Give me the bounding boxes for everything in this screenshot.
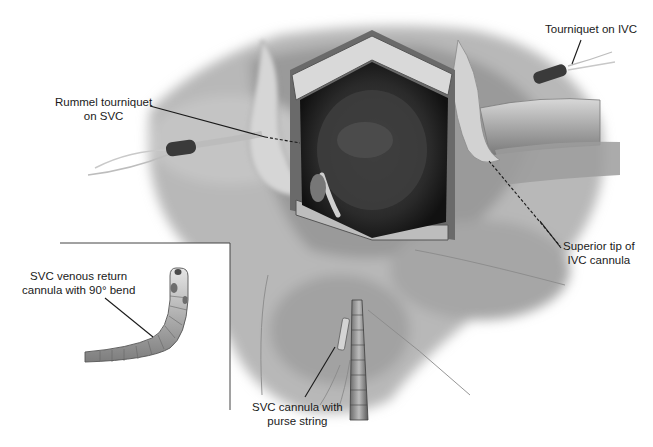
label-svc-venous-return-line2: cannula with 90° bend — [22, 283, 135, 297]
label-rummel-tourniquet-line1: Rummel tourniquet — [55, 95, 152, 109]
label-superior-tip-line2: IVC cannula — [563, 253, 635, 267]
label-svc-cannula-purse-string: SVC cannula with purse string — [252, 400, 343, 428]
label-rummel-tourniquet: Rummel tourniquet on SVC — [55, 95, 152, 123]
label-svc-cannula-line2: purse string — [252, 414, 343, 428]
label-tourniquet-ivc: Tourniquet on IVC — [545, 22, 637, 36]
label-tourniquet-ivc-line1: Tourniquet on IVC — [545, 22, 637, 36]
illustration-artwork — [0, 0, 653, 447]
label-svc-venous-return-cannula: SVC venous return cannula with 90° bend — [22, 269, 135, 297]
surgical-illustration: Rummel tourniquet on SVC Tourniquet on I… — [0, 0, 653, 447]
label-superior-tip-ivc-cannula: Superior tip of IVC cannula — [563, 239, 635, 267]
label-rummel-tourniquet-line2: on SVC — [55, 109, 152, 123]
label-svc-venous-return-line1: SVC venous return — [22, 269, 135, 283]
label-svc-cannula-line1: SVC cannula with — [252, 400, 343, 414]
label-superior-tip-line1: Superior tip of — [563, 239, 635, 253]
pericardial-cavity — [300, 62, 448, 238]
